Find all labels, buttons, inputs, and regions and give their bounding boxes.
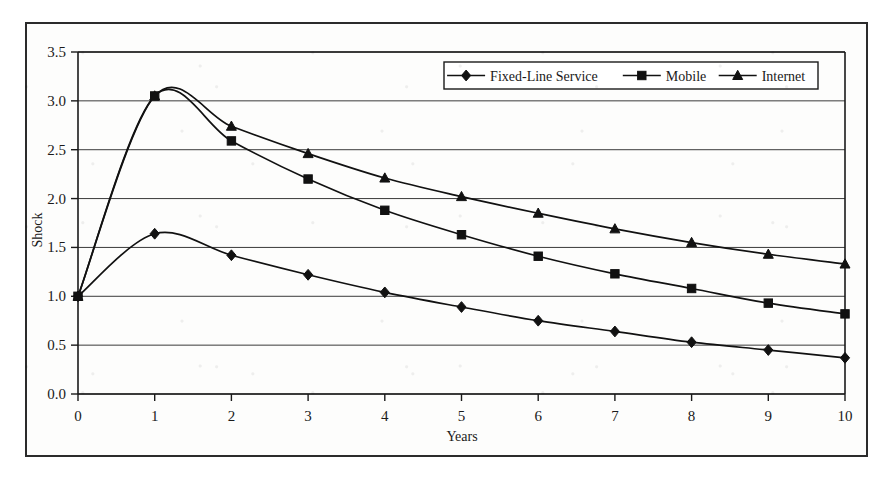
figure-frame	[25, 22, 868, 457]
